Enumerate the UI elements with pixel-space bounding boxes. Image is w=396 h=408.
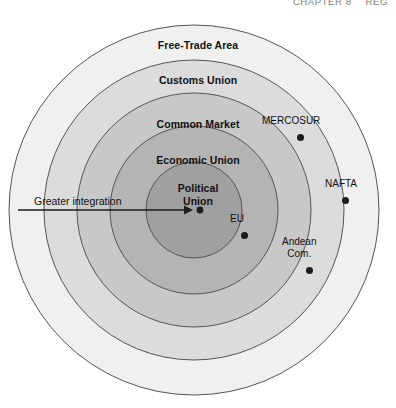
- bloc-label-andean-com-line1: Andean: [282, 236, 316, 247]
- bloc-dot-nafta: [342, 197, 349, 204]
- bloc-label-andean-com-line2: Com.: [287, 248, 311, 259]
- bloc-dot-eu: [241, 232, 248, 239]
- integration-stages-diagram: Free-Trade Area Customs Union Common Mar…: [0, 0, 396, 408]
- center-dot: [197, 207, 204, 214]
- bloc-label-andean-com: Andean Com.: [282, 236, 316, 259]
- greater-integration-label: Greater integration: [34, 195, 122, 207]
- bloc-label-eu: EU: [230, 213, 244, 225]
- bloc-label-mercosur: MERCOSUR: [262, 115, 320, 127]
- bloc-dot-andean-com: [306, 267, 313, 274]
- bloc-label-nafta: NAFTA: [325, 178, 357, 190]
- bloc-dot-mercosur: [297, 134, 304, 141]
